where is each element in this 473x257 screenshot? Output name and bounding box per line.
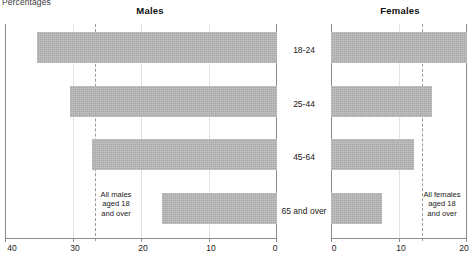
bar-females-45-64 [331, 139, 414, 170]
category-label-25-44: 25-44 [277, 78, 331, 132]
tick-label-20: 20 [459, 243, 468, 253]
bar-females-18-24 [331, 32, 467, 63]
annotation-males-average: All males aged 18 and over [88, 190, 144, 218]
tick-30 [73, 238, 74, 242]
bar-row-males-18-24 [5, 24, 277, 78]
bar-row-males-25-44 [5, 78, 277, 132]
bar-males-18-24 [37, 32, 277, 63]
annotation-females-average: All females aged 18 and over [414, 190, 470, 218]
bar-females-25-44 [331, 86, 432, 117]
annotation-females-line3: and over [427, 209, 457, 218]
tick-label-0: 0 [273, 243, 278, 253]
annotation-females-line2: aged 18 [428, 199, 455, 208]
bar-row-females-45-64 [331, 131, 467, 185]
tick-label-20: 20 [138, 243, 147, 253]
annotation-males-line2: aged 18 [102, 199, 129, 208]
tick-10 [209, 238, 210, 242]
category-labels: 18-24 25-44 45-64 65 and over [277, 24, 331, 238]
annotation-males-line1: All males [101, 190, 132, 199]
bar-males-25-44 [70, 86, 277, 117]
bar-females-65-and-over [331, 193, 382, 224]
category-label-45-64: 45-64 [277, 131, 331, 185]
bar-males-65-and-over [162, 193, 277, 224]
tick-10 [399, 238, 400, 242]
tick-20 [141, 238, 142, 242]
x-axis-females: 0 10 20 [331, 238, 467, 257]
category-label-65-and-over: 65 and over [277, 185, 331, 239]
bar-males-45-64 [92, 139, 277, 170]
tick-label-10: 10 [206, 243, 215, 253]
tick-label-0: 0 [332, 243, 337, 253]
bar-row-males-45-64 [5, 131, 277, 185]
tick-label-30: 30 [70, 243, 79, 253]
panel-title-males: Males [20, 5, 280, 16]
panel-title-females: Females [330, 5, 470, 16]
category-label-18-24: 18-24 [277, 24, 331, 78]
bar-row-females-25-44 [331, 78, 467, 132]
x-axis-males: 40 30 20 10 0 [5, 238, 277, 257]
tick-0 [331, 238, 332, 242]
annotation-females-line1: All females [423, 190, 460, 199]
tick-0 [276, 238, 277, 242]
annotation-males-line3: and over [101, 209, 131, 218]
tick-label-40: 40 [7, 243, 16, 253]
tick-40 [5, 238, 6, 242]
tick-20 [466, 238, 467, 242]
tick-label-10: 10 [396, 243, 405, 253]
bar-row-females-18-24 [331, 24, 467, 78]
